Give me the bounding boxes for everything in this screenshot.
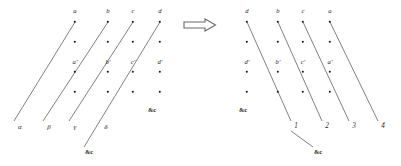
left-mid-label: a′ xyxy=(73,59,78,66)
left-top-label: c xyxy=(131,8,134,15)
left-edge xyxy=(69,22,133,121)
right-node-dot xyxy=(277,91,279,93)
left-node-dot xyxy=(74,41,76,43)
right-etc-label: &c xyxy=(239,107,247,113)
right-bottom-label: 4 xyxy=(381,123,385,130)
left-node-dot xyxy=(159,71,161,73)
left-edge xyxy=(14,22,75,121)
double-line-right-arrow-icon xyxy=(183,18,217,36)
right-etc-label: &c xyxy=(314,149,322,155)
left-node-dot xyxy=(107,71,109,73)
right-node-dot xyxy=(302,91,304,93)
left-bottom-label: γ xyxy=(74,124,77,131)
right-top-label: b xyxy=(276,8,279,15)
left-bottom-label: α xyxy=(18,124,22,131)
permutation-diagram-figure: abcd a′b′c′d′ αβγδ &c&c dbca d′b′c′a′ 12… xyxy=(0,0,401,166)
left-mid-label: d′ xyxy=(158,59,163,66)
right-node-dot xyxy=(329,21,331,23)
right-node-dot xyxy=(246,21,248,23)
arrow-glyph xyxy=(183,18,217,32)
left-node-dot xyxy=(132,71,134,73)
right-edge xyxy=(330,22,378,121)
left-node-dot xyxy=(107,21,109,23)
right-node-dot xyxy=(329,91,331,93)
right-node-dot xyxy=(302,71,304,73)
right-top-label: a xyxy=(328,8,331,15)
left-etc-label: &c xyxy=(148,107,156,113)
left-top-label: d xyxy=(158,8,161,15)
left-node-dot xyxy=(74,71,76,73)
left-node-dot xyxy=(159,91,161,93)
right-node-dot xyxy=(277,71,279,73)
arrow-outline-path xyxy=(184,19,216,31)
right-node-dot xyxy=(329,71,331,73)
right-bottom-label: 1 xyxy=(294,123,298,130)
left-diagram-edges xyxy=(14,22,160,147)
right-mid-label: d′ xyxy=(245,59,250,66)
right-node-dot xyxy=(329,41,331,43)
left-mid-label: b′ xyxy=(106,59,111,66)
left-top-label: a xyxy=(73,8,76,15)
left-node-dot xyxy=(159,21,161,23)
right-node-dot xyxy=(302,21,304,23)
left-node-dot xyxy=(132,21,134,23)
right-edge xyxy=(303,22,349,121)
right-mid-label: c′ xyxy=(301,59,306,66)
right-mid-label: a′ xyxy=(328,59,333,66)
right-node-dot xyxy=(246,71,248,73)
left-node-dot xyxy=(132,41,134,43)
right-bottom-label: 2 xyxy=(325,123,329,130)
right-node-dot xyxy=(246,91,248,93)
left-node-dot xyxy=(107,41,109,43)
right-edge xyxy=(291,131,313,147)
right-top-label: d xyxy=(245,8,248,15)
right-bottom-label: 3 xyxy=(352,123,356,130)
left-edge xyxy=(84,22,160,147)
right-edge xyxy=(278,22,322,121)
right-node-dot xyxy=(302,41,304,43)
right-node-dot xyxy=(277,41,279,43)
right-node-dot xyxy=(246,41,248,43)
left-mid-label: c′ xyxy=(131,59,136,66)
left-node-dot xyxy=(107,91,109,93)
right-node-dot xyxy=(277,21,279,23)
right-mid-label: b′ xyxy=(276,59,281,66)
left-node-dot xyxy=(74,21,76,23)
left-etc-label: &c xyxy=(85,149,93,155)
left-bottom-label: β xyxy=(47,124,51,131)
left-bottom-label: δ xyxy=(104,124,107,131)
left-node-dot xyxy=(159,41,161,43)
left-node-dot xyxy=(74,91,76,93)
left-top-label: b xyxy=(106,8,109,15)
left-node-dot xyxy=(132,91,134,93)
right-edge xyxy=(247,22,291,121)
right-diagram-edges xyxy=(247,22,378,147)
right-top-label: c xyxy=(301,8,304,15)
